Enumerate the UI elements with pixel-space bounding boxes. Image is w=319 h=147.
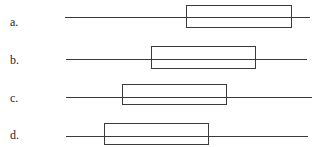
option-label-d: d.: [10, 129, 19, 141]
option-row-d[interactable]: d.: [0, 0, 319, 147]
answer-options-figure: a. b. c. d.: [0, 0, 319, 147]
rectangle-d: [104, 123, 209, 145]
